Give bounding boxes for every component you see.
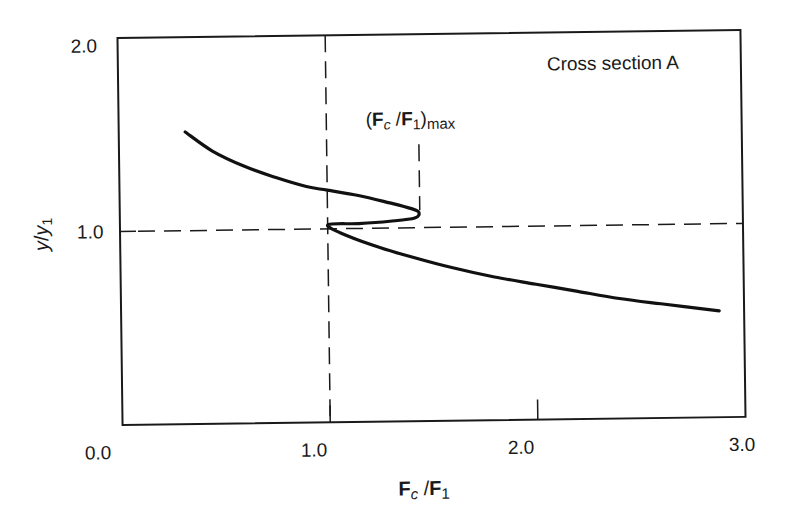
y-axis-title: y/y1 [30,217,55,253]
series-cross-section-a [185,125,719,318]
ref-line-y1 [138,223,743,231]
ref-line-fcmax [419,144,420,210]
x-axis-title: Fc /F1 [398,477,450,503]
chart-svg: 0.0 1.0 2.0 3.0 2.0 1.0 Cross section A … [0,0,787,517]
cross-section-label: Cross section A [547,52,680,75]
y-tick-label-1: 1.0 [77,221,104,242]
y-tick-label-2: 2.0 [70,35,97,56]
chart-figure: 0.0 1.0 2.0 3.0 2.0 1.0 Cross section A … [0,0,787,517]
fcmax-annotation: (Fc /F1)max [365,108,455,133]
x-tick-label-3: 3.0 [729,434,756,455]
x-tick-label-0: 0.0 [85,442,112,463]
x-tick-label-1: 1.0 [301,439,328,460]
x-tick-label-2: 2.0 [508,437,535,458]
